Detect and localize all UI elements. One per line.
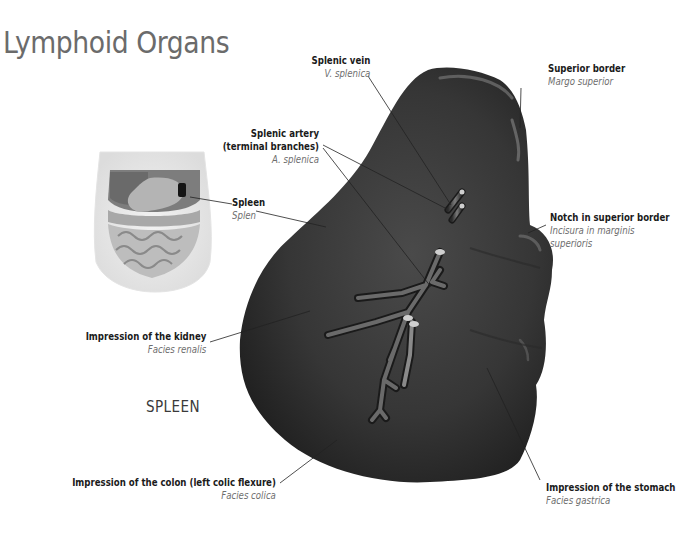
section-label: SPLEEN	[146, 398, 200, 416]
label-splenic-vein: Splenic vein V. splenica	[302, 54, 370, 80]
label-impression-stomach: Impression of the stomach Facies gastric…	[546, 481, 685, 507]
label-superior-border: Superior border Margo superior	[548, 62, 638, 88]
label-impression-kidney: Impression of the kidney Facies renalis	[66, 330, 206, 356]
torso-abdomen-icon	[94, 152, 211, 292]
label-splenic-artery: Splenic artery (terminal branches) A. sp…	[207, 127, 319, 166]
label-notch-superior-border: Notch in superior border Incisura in mar…	[550, 211, 685, 250]
label-impression-colon: Impression of the colon (left colic flex…	[39, 476, 276, 502]
label-spleen: Spleen Splen	[232, 196, 270, 222]
